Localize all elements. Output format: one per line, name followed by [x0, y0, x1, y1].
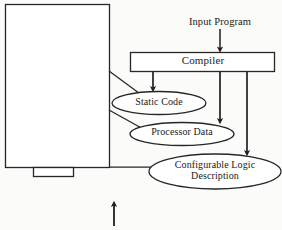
diagram-vector-layer — [0, 0, 282, 230]
configurable-logic-label-line-2: Description — [191, 170, 239, 181]
static-code-label: Static Code — [117, 97, 201, 108]
compiler-label: Compiler — [158, 55, 248, 67]
bottom-caption-clipped — [34, 224, 230, 230]
device-block-shape — [6, 5, 110, 177]
input-program-label: Input Program — [168, 16, 272, 27]
processor-data-label: Processor Data — [132, 127, 232, 138]
figure-canvas: Input Program Compiler Static Code Proce… — [0, 0, 282, 230]
configurable-logic-description-label: Configurable Logic Description — [156, 159, 274, 181]
configurable-logic-label-line-1: Configurable Logic — [175, 159, 255, 170]
